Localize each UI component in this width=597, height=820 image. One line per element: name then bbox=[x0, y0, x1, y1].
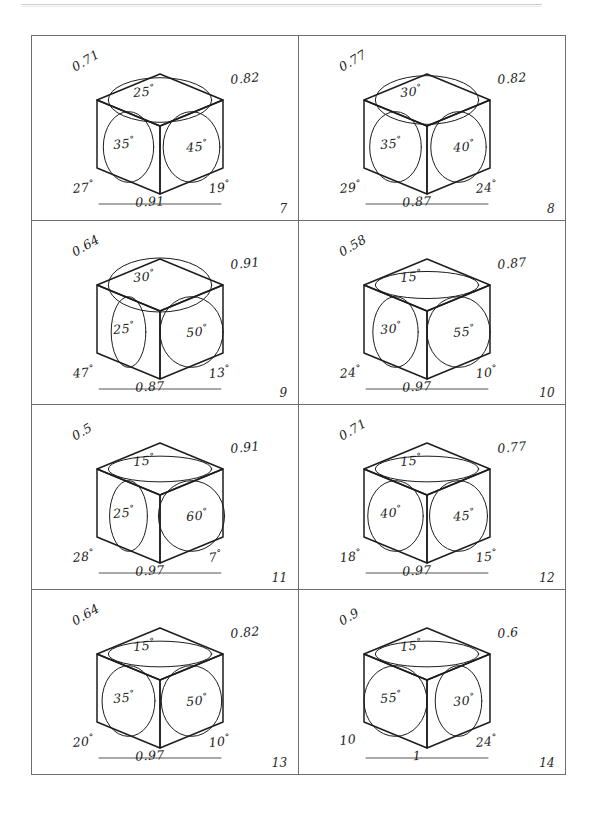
angle-right-7: 45° bbox=[186, 138, 209, 154]
angle-left-8: 35° bbox=[379, 135, 402, 151]
figure-number-14: 14 bbox=[539, 756, 555, 770]
base-value-11: 0.97 bbox=[135, 564, 165, 578]
edge-label-right-13: 0.82 bbox=[230, 625, 260, 640]
base-angle-right-12: 15° bbox=[475, 548, 498, 565]
angle-left-10: 30° bbox=[379, 320, 402, 336]
base-value-7: 0.91 bbox=[135, 195, 165, 209]
edge-label-right-12: 0.77 bbox=[497, 440, 527, 455]
angle-top-12: 15° bbox=[399, 452, 422, 468]
edge-label-right-7: 0.82 bbox=[230, 71, 260, 86]
base-angle-left-11: 28° bbox=[72, 548, 95, 565]
base-angle-right-8: 24° bbox=[475, 179, 498, 196]
angle-top-7: 25° bbox=[133, 83, 156, 99]
base-value-13: 0.97 bbox=[135, 749, 165, 763]
figure-grid: 0.710.8225°35°45°27°19°0.9170.770.8230°3… bbox=[31, 35, 566, 775]
figure-cell-9: 0.640.9130°25°50°47°13°0.879 bbox=[32, 221, 299, 406]
angle-top-14: 15° bbox=[399, 637, 422, 653]
angle-top-8: 30° bbox=[399, 83, 422, 99]
figure-cell-10: 0.580.8715°30°55°24°10°0.9710 bbox=[299, 221, 566, 406]
angle-left-12: 40° bbox=[379, 504, 402, 520]
edge-label-right-11: 0.91 bbox=[230, 440, 260, 455]
angle-top-10: 15° bbox=[399, 268, 422, 284]
edge-label-right-8: 0.82 bbox=[497, 71, 527, 86]
angle-left-7: 35° bbox=[113, 135, 136, 151]
base-value-10: 0.97 bbox=[401, 380, 431, 394]
edge-label-right-10: 0.87 bbox=[497, 256, 527, 271]
figure-number-10: 10 bbox=[539, 386, 555, 400]
base-angle-left-7: 27° bbox=[72, 179, 95, 196]
base-angle-right-9: 13° bbox=[208, 363, 231, 380]
figure-number-11: 11 bbox=[272, 571, 288, 585]
base-angle-right-10: 10° bbox=[475, 363, 498, 380]
figure-cell-13: 0.640.8215°35°50°20°10°0.9713 bbox=[32, 590, 299, 775]
angle-right-14: 30° bbox=[452, 692, 475, 708]
figure-number-13: 13 bbox=[272, 756, 288, 770]
figure-cell-14: 0.90.615°55°30°1024°114 bbox=[299, 590, 566, 775]
angle-left-11: 25° bbox=[113, 504, 136, 520]
angle-right-11: 60° bbox=[186, 507, 209, 523]
scan-artifact-line bbox=[22, 4, 542, 5]
base-value-9: 0.87 bbox=[135, 380, 165, 394]
edge-label-right-14: 0.6 bbox=[497, 626, 519, 640]
base-angle-right-11: 7° bbox=[208, 549, 223, 565]
angle-right-13: 50° bbox=[186, 692, 209, 708]
base-angle-right-7: 19° bbox=[208, 179, 231, 196]
figure-cell-8: 0.770.8230°35°40°29°24°0.878 bbox=[299, 36, 566, 221]
figure-number-12: 12 bbox=[539, 571, 555, 585]
base-angle-left-9: 47° bbox=[72, 363, 95, 380]
figure-cell-12: 0.710.7715°40°45°18°15°0.9712 bbox=[299, 405, 566, 590]
base-angle-left-10: 24° bbox=[339, 363, 362, 380]
figure-number-7: 7 bbox=[280, 202, 288, 216]
base-angle-left-13: 20° bbox=[72, 732, 95, 749]
figure-number-8: 8 bbox=[547, 202, 555, 216]
angle-top-9: 30° bbox=[133, 268, 156, 284]
angle-top-13: 15° bbox=[133, 637, 156, 653]
edge-label-right-9: 0.91 bbox=[230, 256, 260, 271]
base-value-8: 0.87 bbox=[401, 195, 431, 209]
angle-right-8: 40° bbox=[452, 138, 475, 154]
figure-number-9: 9 bbox=[280, 386, 288, 400]
figure-cell-7: 0.710.8225°35°45°27°19°0.917 bbox=[32, 36, 299, 221]
base-angle-right-14: 24° bbox=[475, 732, 498, 749]
base-angle-left-8: 29° bbox=[339, 179, 362, 196]
base-angle-left-12: 18° bbox=[339, 548, 362, 565]
base-angle-right-13: 10° bbox=[208, 732, 231, 749]
scan-artifact-line-secondary bbox=[22, 6, 542, 7]
angle-top-11: 15° bbox=[133, 452, 156, 468]
angle-left-13: 35° bbox=[113, 689, 136, 705]
figure-cell-11: 0.50.9115°25°60°28°7°0.9711 bbox=[32, 405, 299, 590]
angle-right-12: 45° bbox=[452, 507, 475, 523]
angle-right-9: 50° bbox=[186, 323, 209, 339]
base-value-12: 0.97 bbox=[401, 564, 431, 578]
base-angle-left-14: 10 bbox=[339, 733, 357, 747]
angle-left-9: 25° bbox=[113, 320, 136, 336]
angle-left-14: 55° bbox=[379, 689, 402, 705]
angle-right-10: 55° bbox=[452, 323, 475, 339]
base-value-14: 1 bbox=[412, 749, 421, 762]
